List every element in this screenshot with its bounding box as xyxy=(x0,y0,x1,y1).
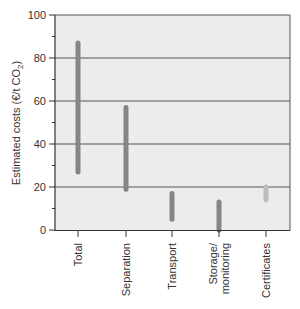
x-tick-label: Storage/ xyxy=(207,242,219,285)
y-tick-label: 20 xyxy=(34,181,46,193)
y-tick-label: 40 xyxy=(34,138,46,150)
x-axis-ticks: TotalSeparationTransportStorage/monitori… xyxy=(72,231,272,298)
x-tick-label: Separation xyxy=(120,243,132,296)
x-tick-label: monitoring xyxy=(219,243,231,294)
y-tick-label: 100 xyxy=(28,9,46,21)
x-tick-label: Transport xyxy=(166,243,178,290)
x-tick-label: Certificates xyxy=(260,243,272,299)
y-axis-label: Estimated costs (€/t CO2) xyxy=(10,61,25,185)
y-tick-label: 60 xyxy=(34,95,46,107)
range-chart: 020406080100 TotalSeparationTransportSto… xyxy=(0,0,300,309)
x-tick-label: Total xyxy=(72,243,84,266)
y-axis-ticks: 020406080100 xyxy=(28,9,55,236)
y-tick-label: 80 xyxy=(34,52,46,64)
y-tick-label: 0 xyxy=(40,224,46,236)
